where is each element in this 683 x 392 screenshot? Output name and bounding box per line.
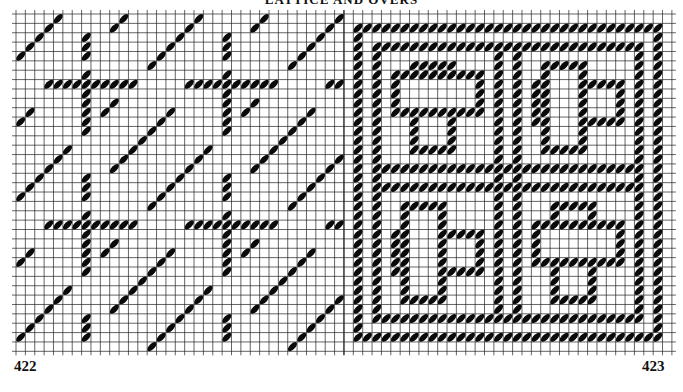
chart-number-422: 422	[14, 358, 37, 375]
stitch-chart	[0, 0, 683, 392]
chart-number-423: 423	[642, 358, 665, 375]
